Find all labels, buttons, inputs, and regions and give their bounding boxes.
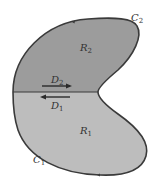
region-r2 xyxy=(13,18,139,92)
region-diagram: R2 R1 C2 C1 D2 D1 xyxy=(0,0,157,185)
